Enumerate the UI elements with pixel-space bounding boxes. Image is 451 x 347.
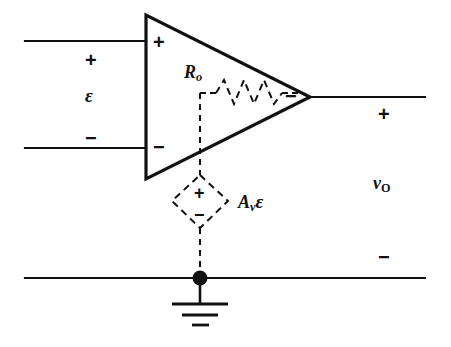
opamp-output-minus-sign: −	[285, 86, 297, 106]
input-plus-sign: +	[85, 50, 97, 70]
output-voltage-label-main: v	[373, 173, 381, 193]
output-minus-sign: −	[378, 247, 390, 267]
output-voltage-label: vO	[373, 174, 391, 194]
output-resistance-label: Ro	[184, 63, 202, 84]
output-resistance-label-main: R	[184, 62, 196, 82]
output-voltage-label-sub: O	[381, 181, 391, 195]
dependent-source-label: Avε	[238, 192, 263, 214]
output-plus-sign: +	[378, 104, 390, 124]
opamp-noninverting-input-sign: +	[153, 32, 165, 52]
output-resistor-zigzag	[216, 80, 282, 104]
dependent-source-label-main: A	[238, 192, 250, 212]
circuit-diagram: + ε − + − − Ro + − Avε + vO −	[0, 0, 451, 347]
dependent-source-minus-sign: −	[194, 206, 205, 224]
opamp-inverting-input-sign: −	[153, 137, 165, 157]
input-source-label: ε	[85, 86, 93, 105]
output-resistance-label-sub: o	[196, 70, 202, 84]
dependent-source-plus-sign: +	[194, 184, 205, 202]
dependent-source-label-tail: ε	[255, 191, 263, 212]
input-minus-sign: −	[85, 128, 97, 148]
